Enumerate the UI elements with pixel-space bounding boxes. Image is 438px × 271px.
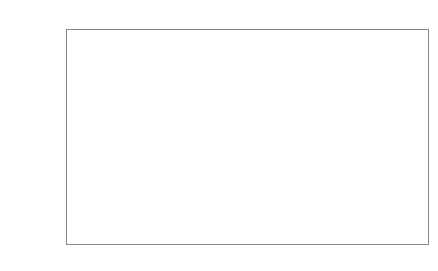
y-axis bbox=[0, 0, 62, 271]
plot-area bbox=[66, 29, 429, 245]
probability-plot bbox=[0, 0, 438, 271]
